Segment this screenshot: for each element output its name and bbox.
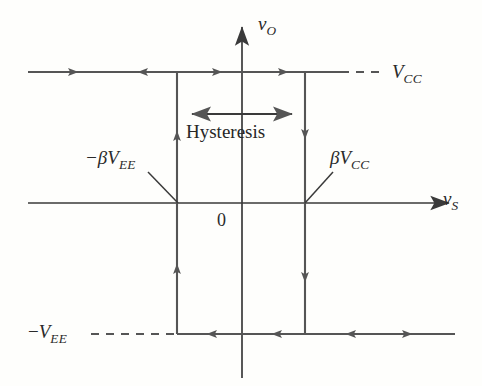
axes-group bbox=[28, 27, 449, 378]
leader-line-beta-vcc bbox=[305, 172, 333, 203]
vee-label-subscript: EE bbox=[50, 331, 67, 346]
vcc-label-subscript: CC bbox=[404, 71, 422, 86]
x-axis-label: vS bbox=[443, 189, 458, 212]
beta-vcc-var: V bbox=[339, 147, 351, 168]
y-axis-label-subscript: O bbox=[266, 23, 276, 38]
vcc-level-label: VCC bbox=[392, 62, 422, 85]
beta-vee-threshold-label: −βVEE bbox=[85, 148, 136, 171]
origin-label: 0 bbox=[217, 211, 226, 229]
beta-vee-var: V bbox=[107, 147, 119, 168]
beta-vcc-subscript: CC bbox=[351, 157, 369, 172]
beta-vee-subscript: EE bbox=[119, 157, 136, 172]
y-axis-label: vO bbox=[258, 14, 276, 37]
beta-vcc-threshold-label: βVCC bbox=[330, 148, 369, 171]
vee-label-var: V bbox=[39, 321, 51, 342]
beta-vee-prefix: −β bbox=[85, 147, 107, 168]
vcc-label-var: V bbox=[392, 61, 404, 82]
hysteresis-figure: vO vS 0 VCC −VEE βVCC −βVEE Hysteresis bbox=[0, 0, 482, 386]
vee-level-label: −VEE bbox=[28, 322, 67, 345]
leader-line-beta-vee bbox=[148, 172, 178, 203]
vee-label-prefix: − bbox=[28, 321, 39, 342]
x-axis-label-subscript: S bbox=[451, 198, 458, 213]
hysteresis-plot bbox=[0, 0, 482, 386]
hysteresis-label: Hysteresis bbox=[186, 122, 265, 141]
